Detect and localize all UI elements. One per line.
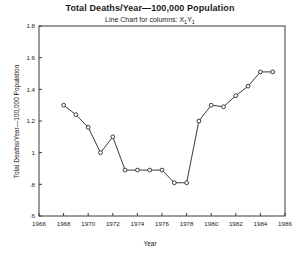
y-tick-label: 1.6 bbox=[26, 54, 35, 61]
x-tick-label: 1978 bbox=[180, 220, 194, 227]
data-point-marker bbox=[185, 181, 189, 185]
data-point-marker bbox=[271, 70, 275, 74]
x-axis-ticks: 1966196819701972197419761978198019821984… bbox=[32, 213, 292, 227]
series-markers bbox=[62, 70, 275, 185]
data-point-marker bbox=[136, 168, 140, 172]
plot-area: .6.811.21.41.61.8 1966196819701972197419… bbox=[0, 0, 300, 256]
y-tick-label: 1 bbox=[32, 149, 36, 156]
x-tick-label: 1982 bbox=[229, 220, 243, 227]
line-chart: Total Deaths/Year—100,000 Population Lin… bbox=[0, 0, 300, 256]
x-tick-label: 1976 bbox=[155, 220, 169, 227]
y-tick-label: 1.2 bbox=[26, 117, 35, 124]
x-tick-label: 1984 bbox=[254, 220, 268, 227]
data-point-marker bbox=[222, 105, 226, 109]
series-line bbox=[64, 72, 273, 183]
x-tick-label: 1970 bbox=[81, 220, 95, 227]
data-point-marker bbox=[148, 168, 152, 172]
x-tick-label: 1986 bbox=[278, 220, 292, 227]
data-point-marker bbox=[86, 125, 90, 129]
data-point-marker bbox=[123, 168, 127, 172]
data-point-marker bbox=[259, 70, 263, 74]
x-tick-label: 1966 bbox=[32, 220, 46, 227]
data-point-marker bbox=[172, 181, 176, 185]
data-point-marker bbox=[62, 103, 66, 107]
y-axis-ticks: .6.811.21.41.61.8 bbox=[26, 22, 42, 219]
data-point-marker bbox=[234, 94, 238, 98]
data-point-marker bbox=[74, 113, 78, 117]
y-tick-label: .6 bbox=[30, 212, 36, 219]
data-point-marker bbox=[160, 168, 164, 172]
y-tick-label: .8 bbox=[30, 181, 36, 188]
data-point-marker bbox=[99, 151, 103, 155]
data-point-marker bbox=[209, 103, 213, 107]
x-tick-label: 1980 bbox=[204, 220, 218, 227]
data-point-marker bbox=[246, 84, 250, 88]
y-tick-label: 1.4 bbox=[26, 86, 35, 93]
x-tick-label: 1974 bbox=[131, 220, 145, 227]
x-tick-label: 1972 bbox=[106, 220, 120, 227]
data-point-marker bbox=[197, 119, 201, 123]
plot-frame bbox=[39, 26, 285, 216]
y-tick-label: 1.8 bbox=[26, 22, 35, 29]
x-tick-label: 1968 bbox=[57, 220, 71, 227]
data-point-marker bbox=[111, 135, 115, 139]
